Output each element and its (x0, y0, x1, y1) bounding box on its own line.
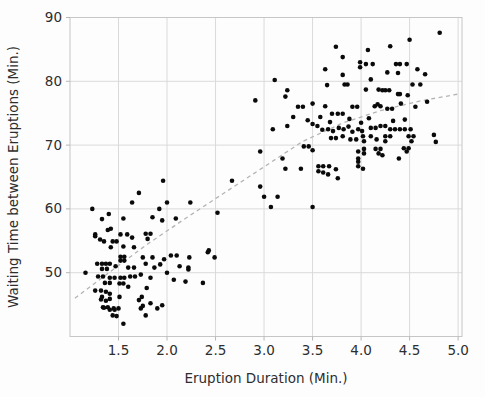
data-point (411, 134, 416, 139)
data-point (139, 272, 144, 277)
data-point (405, 93, 410, 98)
data-point (161, 179, 166, 184)
data-point (133, 274, 138, 279)
data-point (337, 126, 342, 131)
data-point (269, 205, 274, 210)
data-point (140, 295, 145, 300)
data-point (334, 136, 339, 141)
data-point (310, 122, 315, 127)
data-point (152, 265, 157, 270)
data-point (310, 101, 315, 106)
data-point (114, 239, 119, 244)
data-point (108, 262, 113, 267)
y-axis-title: Waiting Time between Eruptions (Min.) (5, 46, 21, 308)
data-point (165, 200, 170, 205)
data-point (378, 124, 383, 129)
data-point (121, 244, 126, 249)
data-point (383, 124, 388, 129)
data-point (398, 127, 403, 132)
data-point (99, 288, 104, 293)
data-point (162, 257, 167, 262)
data-point (183, 279, 188, 284)
data-point (283, 166, 288, 171)
data-point (137, 191, 142, 196)
data-point (378, 147, 383, 152)
data-point (326, 127, 331, 132)
data-point (340, 73, 345, 78)
data-point (271, 127, 276, 132)
data-point (391, 119, 396, 124)
data-point (188, 200, 193, 205)
data-point (356, 127, 361, 132)
data-point (350, 105, 355, 110)
data-point (275, 195, 280, 200)
x-tick-label: 2.5 (205, 342, 226, 358)
data-point (310, 148, 315, 153)
data-point (364, 62, 369, 67)
data-point (158, 262, 163, 267)
data-point (114, 314, 119, 319)
data-points (83, 31, 442, 327)
x-tick-label: 3.0 (253, 342, 274, 358)
data-point (141, 304, 146, 309)
data-point (345, 82, 350, 87)
data-point (360, 129, 365, 134)
x-tick-label: 4.0 (350, 342, 371, 358)
data-point (374, 137, 379, 142)
data-point (348, 137, 353, 142)
data-point (283, 94, 288, 99)
data-point (406, 134, 411, 139)
data-point (215, 210, 220, 215)
data-point (109, 226, 114, 231)
y-tick-label: 50 (45, 264, 62, 280)
data-point (397, 156, 402, 161)
data-point (362, 151, 367, 156)
data-point (341, 127, 346, 132)
data-point (121, 321, 126, 326)
data-point (318, 115, 323, 120)
data-point (336, 112, 341, 117)
data-point (113, 264, 118, 269)
data-point (356, 164, 361, 169)
data-point (418, 82, 423, 87)
data-point (112, 307, 117, 312)
data-point (302, 144, 307, 149)
data-point (413, 105, 418, 110)
data-point (315, 124, 320, 129)
data-point (109, 245, 114, 250)
data-point (393, 127, 398, 132)
data-point (96, 274, 101, 279)
data-point (212, 255, 217, 260)
data-point (434, 140, 439, 145)
data-point (102, 239, 107, 244)
x-tick-label: 1.5 (108, 342, 129, 358)
data-point (320, 128, 325, 133)
data-point (410, 82, 415, 87)
data-point (329, 136, 334, 141)
data-point (258, 149, 263, 154)
x-tick-label: 2.0 (156, 342, 177, 358)
data-point (272, 78, 277, 83)
data-point (403, 127, 408, 132)
data-point (328, 120, 333, 125)
data-point (145, 237, 150, 242)
data-point (310, 205, 315, 210)
data-point (369, 126, 374, 131)
data-point (358, 65, 363, 70)
data-point (169, 253, 174, 258)
data-point (406, 146, 411, 151)
data-point (207, 248, 212, 253)
data-point (143, 262, 148, 267)
data-point (126, 265, 131, 270)
data-point (291, 115, 296, 120)
data-point (160, 303, 165, 308)
data-point (403, 117, 408, 122)
data-point (354, 137, 359, 142)
data-point (110, 313, 115, 318)
data-point (370, 62, 375, 67)
data-point (398, 92, 403, 97)
data-point (155, 306, 160, 311)
data-point (108, 276, 113, 281)
data-point (285, 88, 290, 93)
data-point (148, 232, 153, 237)
